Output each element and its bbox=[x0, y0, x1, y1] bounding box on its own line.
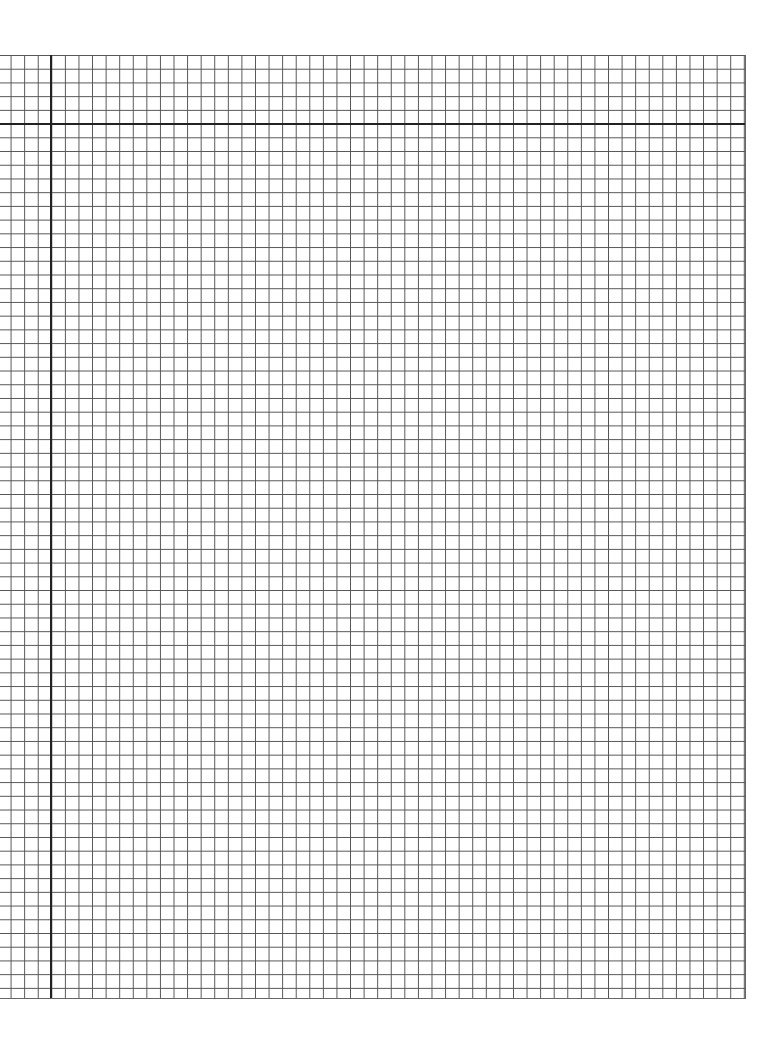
clue-divider-vertical bbox=[50, 55, 52, 998]
nonogram-grid[interactable] bbox=[0, 55, 746, 999]
clue-divider-horizontal bbox=[0, 123, 745, 125]
